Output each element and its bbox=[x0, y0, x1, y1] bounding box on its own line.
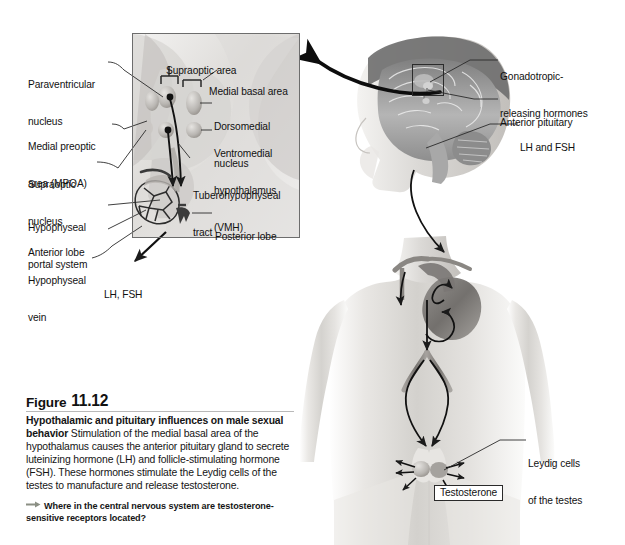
leader-mpoa bbox=[112, 124, 124, 129]
ventromedial-nucleus-shape bbox=[186, 122, 202, 138]
figure-number: 11.12 bbox=[71, 392, 108, 410]
testes-illustration bbox=[412, 448, 448, 483]
testosterone-label-box: Testosterone bbox=[434, 485, 503, 501]
figure-caption: Figure 11.12 Hypothalamic and pituitary … bbox=[26, 392, 298, 524]
right-testis bbox=[430, 462, 448, 478]
leader-hypophyseal-vein bbox=[92, 246, 112, 258]
label-hypophyseal-vein: Hypophyseal vein bbox=[28, 251, 86, 349]
right-arrow-icon bbox=[26, 500, 41, 507]
label-leydig-cells-of-the-testes: Leydig cells of the testes bbox=[528, 434, 582, 532]
figure-caption-body: Hypothalamic and pituitary influences on… bbox=[26, 415, 298, 492]
figure-question-row: Where in the central nervous system are … bbox=[26, 501, 298, 524]
testosterone-label-text: Testosterone bbox=[440, 487, 497, 498]
label-posterior-lobe: Posterior lobe bbox=[215, 207, 276, 268]
label-lh-fsh-outflow: LH, FSH bbox=[104, 265, 142, 326]
figure-11-12: Paraventricular nucleus Medial preoptic … bbox=[0, 0, 625, 545]
leader-paraventricular bbox=[108, 62, 124, 70]
leader-supraoptic-nucleus bbox=[97, 162, 118, 168]
figure-number-row: Figure 11.12 bbox=[26, 392, 294, 412]
label-lh-and-fsh: LH and FSH bbox=[520, 118, 575, 179]
left-testis bbox=[412, 461, 430, 477]
figure-word: Figure bbox=[26, 395, 66, 410]
brain-callout-box bbox=[412, 64, 444, 96]
figure-question-text: Where in the central nervous system are … bbox=[26, 501, 274, 522]
